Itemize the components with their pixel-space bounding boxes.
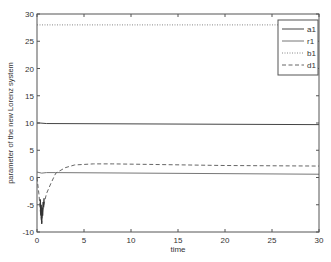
y-tick-label: -10 <box>22 228 34 237</box>
series-a1 <box>37 123 319 125</box>
x-tick-label: 5 <box>82 236 87 245</box>
x-tick-label: 0 <box>35 236 40 245</box>
y-tick-label: -5 <box>27 201 35 210</box>
y-tick-label: 10 <box>25 119 34 128</box>
legend-label-d1: d1 <box>307 61 316 70</box>
x-tick-label: 25 <box>268 236 277 245</box>
y-tick-label: 0 <box>30 174 35 183</box>
line-chart: 051015202530-10-5051015202530 time param… <box>0 0 331 262</box>
x-tick-label: 30 <box>315 236 324 245</box>
legend-label-b1: b1 <box>307 49 316 58</box>
y-tick-label: 5 <box>30 146 35 155</box>
y-tick-label: 25 <box>25 37 34 46</box>
y-axis-label: parameter of the new Lorenz system <box>6 62 15 184</box>
y-tick-label: 30 <box>25 10 34 19</box>
x-tick-label: 10 <box>127 236 136 245</box>
y-tick-label: 20 <box>25 65 34 74</box>
y-tick-label: 15 <box>25 92 34 101</box>
series-r1 <box>37 172 319 174</box>
plot-area <box>37 25 319 224</box>
x-tick-label: 20 <box>221 236 230 245</box>
x-tick-label: 15 <box>174 236 183 245</box>
legend: a1r1b1d1 <box>278 20 318 75</box>
plot-frame <box>37 14 319 232</box>
x-axis-label: time <box>170 245 186 254</box>
legend-label-a1: a1 <box>307 25 316 34</box>
legend-label-r1: r1 <box>307 37 315 46</box>
